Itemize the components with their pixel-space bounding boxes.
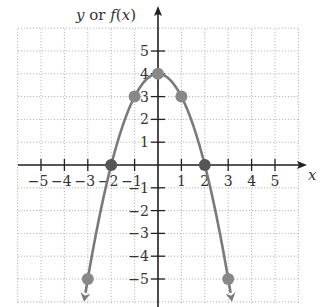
curve-arrow-icon xyxy=(226,292,236,302)
y-tick-label: 3 xyxy=(140,89,149,105)
data-point xyxy=(199,159,211,171)
x-tick-label: 4 xyxy=(247,173,256,189)
y-tick-label: 5 xyxy=(140,43,149,59)
x-tick-label: −4 xyxy=(51,173,72,189)
y-tick-label: −5 xyxy=(128,271,149,287)
y-tick-label: 1 xyxy=(140,134,149,150)
y-tick-label: −1 xyxy=(128,180,149,196)
data-point xyxy=(129,91,141,103)
x-tick-label: 3 xyxy=(224,173,233,189)
chart-container: −5−4−3−2−112345−5−4−3−2−112345 x y or f(… xyxy=(0,0,320,307)
y-axis-label: y or f(x) xyxy=(75,6,136,24)
y-tick-label: −4 xyxy=(128,248,149,264)
data-point xyxy=(105,159,117,171)
x-tick-label: 1 xyxy=(177,173,186,189)
x-tick-label: 5 xyxy=(271,173,280,189)
data-point xyxy=(82,273,94,285)
x-axis-label: x xyxy=(308,166,317,184)
data-point xyxy=(152,68,164,80)
y-tick-label: 2 xyxy=(140,111,149,127)
x-tick-label: −5 xyxy=(28,173,49,189)
curve-arrow-icon xyxy=(81,292,91,302)
data-point xyxy=(222,273,234,285)
y-tick-label: −3 xyxy=(128,225,149,241)
y-tick-label: −2 xyxy=(128,203,149,219)
parabola-chart: −5−4−3−2−112345−5−4−3−2−112345 x y or f(… xyxy=(0,0,320,307)
data-point xyxy=(175,91,187,103)
x-tick-label: −3 xyxy=(74,173,95,189)
